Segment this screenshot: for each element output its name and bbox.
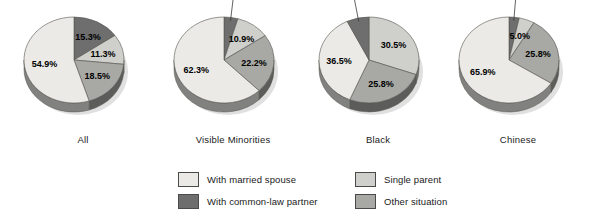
legend-item-with-married-spouse: With married spouse bbox=[178, 168, 318, 190]
pie-chart-black: 30.5%25.8%36.5%7.2% Black bbox=[303, 0, 453, 160]
legend-swatch-with-common-law-partner bbox=[178, 194, 199, 209]
slice-label-callout: 3.3% bbox=[520, 0, 541, 1]
slice-label: 11.3% bbox=[90, 49, 115, 59]
legend-item-single-parent: Single parent bbox=[355, 168, 447, 190]
pie-caption-black: Black bbox=[303, 134, 453, 145]
pie-chart-visible-minorities: 4.5%10.9%22.2%62.3% Visible Minorities bbox=[158, 0, 308, 160]
slice-label: 65.9% bbox=[470, 67, 496, 77]
legend-swatch-other-situation bbox=[355, 194, 376, 209]
slice-label: 30.5% bbox=[381, 40, 407, 50]
pie-caption-all: All bbox=[8, 134, 158, 145]
slice-label: 5.0% bbox=[509, 31, 530, 41]
pie-charts-row: 15.3%11.3%18.5%54.9% All 4.5%10.9%22.2%6… bbox=[0, 0, 597, 160]
slice-label: 54.9% bbox=[32, 59, 58, 69]
slice-label: 10.9% bbox=[229, 34, 255, 44]
legend-item-other-situation: Other situation bbox=[355, 190, 447, 212]
slice-label: 22.2% bbox=[241, 58, 267, 68]
pie-caption-chinese: Chinese bbox=[443, 134, 593, 145]
slice-label-callout: 7.2% bbox=[330, 0, 351, 2]
legend-column-right: Single parent Other situation bbox=[355, 168, 447, 212]
slice-label: 15.3% bbox=[75, 32, 101, 42]
legend-column-left: With married spouse With common-law part… bbox=[178, 168, 318, 212]
slice-label: 25.8% bbox=[368, 79, 394, 89]
pie-svg-all: 15.3%11.3%18.5%54.9% bbox=[8, 0, 158, 136]
pie-chart-figure: 15.3%11.3%18.5%54.9% All 4.5%10.9%22.2%6… bbox=[0, 0, 597, 222]
legend-label-with-married-spouse: With married spouse bbox=[207, 174, 296, 185]
legend-swatch-with-married-spouse bbox=[178, 172, 199, 187]
slice-label: 18.5% bbox=[85, 71, 111, 81]
slice-label: 62.3% bbox=[183, 65, 209, 75]
legend-label-other-situation: Other situation bbox=[384, 196, 447, 207]
legend-label-with-common-law-partner: With common-law partner bbox=[207, 196, 318, 207]
pie-svg-black: 30.5%25.8%36.5%7.2% bbox=[303, 0, 453, 136]
slice-label: 25.8% bbox=[525, 49, 551, 59]
pie-chart-chinese: 3.3%5.0%25.8%65.9% Chinese bbox=[443, 0, 593, 160]
slice-label: 36.5% bbox=[326, 56, 352, 66]
legend-label-single-parent: Single parent bbox=[384, 174, 441, 185]
pie-svg-visible-minorities: 4.5%10.9%22.2%62.3% bbox=[158, 0, 308, 136]
legend-item-with-common-law-partner: With common-law partner bbox=[178, 190, 318, 212]
slice-label-callout: 4.5% bbox=[237, 0, 258, 1]
chart-legend: With married spouse With common-law part… bbox=[178, 168, 578, 218]
pie-svg-chinese: 3.3%5.0%25.8%65.9% bbox=[443, 0, 593, 136]
pie-chart-all: 15.3%11.3%18.5%54.9% All bbox=[8, 0, 158, 160]
pie-caption-visible-minorities: Visible Minorities bbox=[158, 134, 308, 145]
legend-swatch-single-parent bbox=[355, 172, 376, 187]
